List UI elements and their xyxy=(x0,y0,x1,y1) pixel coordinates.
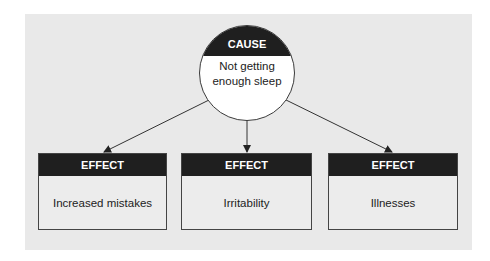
effect-node-2: EFFECT Irritability xyxy=(181,153,312,230)
effect-node-3: EFFECT Illnesses xyxy=(328,153,458,230)
effect-node-1: EFFECT Increased mistakes xyxy=(38,153,167,230)
effect-header: EFFECT xyxy=(39,154,166,176)
arrow-to-effect-1 xyxy=(104,99,211,152)
effect-text: Irritability xyxy=(182,176,311,230)
cause-text: Not getting enough sleep xyxy=(200,59,294,89)
effect-text: Illnesses xyxy=(329,176,457,230)
cause-text-content: Not getting enough sleep xyxy=(212,59,282,89)
cause-header: CAUSE xyxy=(200,26,294,56)
effect-header: EFFECT xyxy=(182,154,311,176)
effect-text: Increased mistakes xyxy=(39,176,166,230)
arrow-to-effect-3 xyxy=(284,99,392,152)
cause-node: CAUSE Not getting enough sleep xyxy=(199,25,295,121)
effect-header: EFFECT xyxy=(329,154,457,176)
